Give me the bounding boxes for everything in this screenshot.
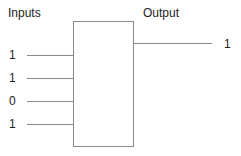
input-3-line: [27, 101, 73, 102]
input-1-line: [27, 55, 73, 56]
input-4-line: [27, 124, 73, 125]
input-3-value: 0: [9, 94, 16, 108]
output-heading: Output: [143, 6, 179, 20]
logic-block: [73, 21, 134, 147]
output-line: [134, 43, 212, 44]
inputs-heading: Inputs: [8, 6, 41, 20]
input-4-value: 1: [9, 117, 16, 131]
output-value: 1: [224, 37, 231, 51]
input-2-line: [27, 78, 73, 79]
input-2-value: 1: [9, 71, 16, 85]
input-1-value: 1: [9, 48, 16, 62]
